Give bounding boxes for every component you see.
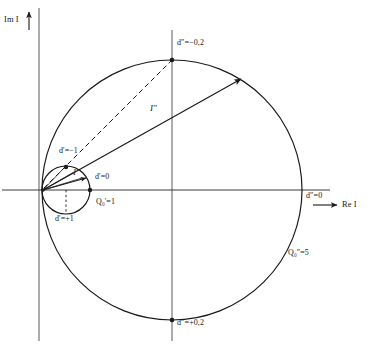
point-d-prime-minus-1 bbox=[64, 165, 68, 169]
label-vector-i-double-prime: I″ bbox=[150, 104, 157, 113]
point-d-prime-zero bbox=[88, 188, 92, 192]
vector-i-prime bbox=[43, 178, 86, 190]
complex-plane-diagram bbox=[0, 0, 383, 348]
label-d-double-prime-plus-02: d″=+0,2 bbox=[177, 319, 204, 327]
label-d-prime-plus-1: d'=+1 bbox=[55, 215, 74, 223]
point-d-double-prime-plus-02 bbox=[170, 318, 175, 323]
label-q0-double-prime: Q₀″=5 bbox=[288, 249, 309, 257]
point-d-double-prime-minus-02 bbox=[170, 58, 175, 63]
label-d-double-prime-minus-02: d″=−0,2 bbox=[177, 39, 204, 47]
label-vector-i-prime: I' bbox=[73, 168, 78, 177]
point-origin bbox=[41, 188, 45, 192]
label-d-double-prime-zero: d″=0 bbox=[306, 192, 322, 200]
label-d-prime-zero: d'=0 bbox=[95, 173, 109, 181]
re-axis-label: Re I bbox=[342, 200, 357, 209]
im-axis-label: Im I bbox=[4, 15, 19, 24]
label-q0-single-prime: Q₀'=1 bbox=[96, 198, 115, 206]
label-d-prime-minus-1: d'=−1 bbox=[59, 147, 78, 155]
figure-root: Im I Re I d″=−0,2 d″=0 d″=+0,2 Q₀″=5 d'=… bbox=[0, 0, 383, 348]
